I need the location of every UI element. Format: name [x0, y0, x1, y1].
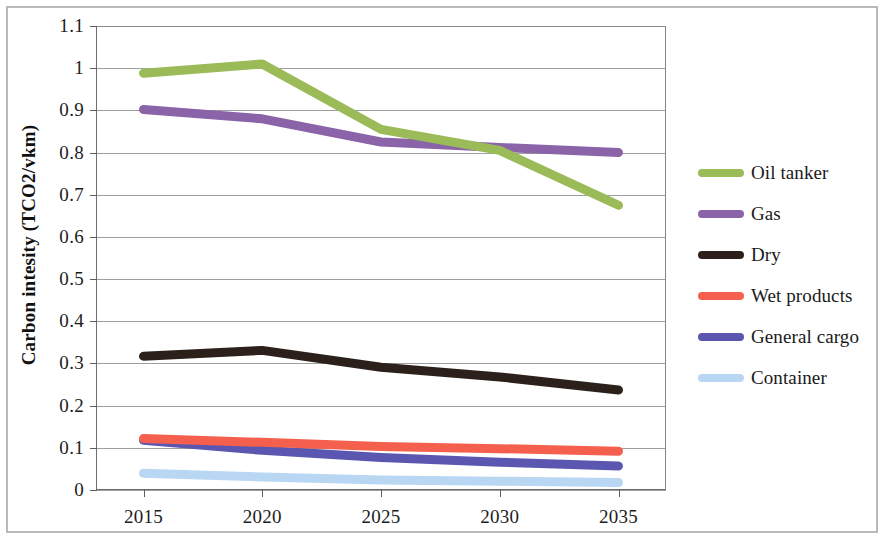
legend-label: General cargo	[751, 326, 859, 348]
x-tick-label: 2020	[243, 506, 282, 528]
x-tick-mark	[144, 489, 145, 497]
x-tick-mark	[619, 489, 620, 497]
legend-swatch	[698, 333, 744, 341]
legend: Oil tankerGasDryWet productsGeneral carg…	[698, 152, 878, 398]
y-tick-label: 0.1	[59, 437, 84, 459]
legend-item-container: Container	[698, 357, 878, 398]
y-tick-label: 0.5	[59, 268, 84, 290]
plot-area: 00.10.20.30.40.50.60.70.80.911.1 2015202…	[96, 26, 666, 490]
legend-label: Container	[751, 367, 827, 389]
legend-item-dry: Dry	[698, 234, 878, 275]
legend-item-wet-products: Wet products	[698, 275, 878, 316]
carbon-intensity-line-chart: Carbon intesity (TCO2/vkm) 00.10.20.30.4…	[0, 0, 884, 539]
y-tick-mark	[90, 490, 97, 491]
series-line-dry	[144, 350, 619, 390]
legend-label: Dry	[751, 244, 781, 266]
legend-swatch	[698, 169, 744, 177]
x-tick-label: 2030	[480, 506, 519, 528]
legend-label: Oil tanker	[751, 162, 829, 184]
y-tick-label: 0.4	[59, 310, 84, 332]
y-tick-label: 0.7	[59, 184, 84, 206]
x-tick-mark	[381, 489, 382, 497]
series-line-oil-tanker	[144, 64, 619, 205]
legend-label: Gas	[751, 203, 781, 225]
series-lines	[96, 26, 666, 490]
x-tick-label: 2035	[599, 506, 638, 528]
x-tick-mark	[500, 489, 501, 497]
x-tick-mark	[262, 489, 263, 497]
y-tick-label: 0.2	[59, 395, 84, 417]
y-tick-label: 1.1	[59, 15, 84, 37]
series-line-container	[144, 473, 619, 482]
legend-swatch	[698, 292, 744, 300]
y-tick-label: 0.3	[59, 352, 84, 374]
y-tick-label: 0.8	[59, 142, 84, 164]
y-tick-label: 0.9	[59, 99, 84, 121]
y-axis-title-text: Carbon intesity (TCO2/vkm)	[18, 125, 40, 366]
legend-swatch	[698, 251, 744, 259]
y-tick-label: 0.6	[59, 226, 84, 248]
legend-item-gas: Gas	[698, 193, 878, 234]
x-tick-label: 2025	[361, 506, 400, 528]
y-axis-title: Carbon intesity (TCO2/vkm)	[14, 0, 44, 490]
y-tick-label: 1	[74, 57, 84, 79]
legend-swatch	[698, 374, 744, 382]
x-tick-label: 2015	[124, 506, 163, 528]
legend-item-oil-tanker: Oil tanker	[698, 152, 878, 193]
y-tick-label: 0	[74, 479, 84, 501]
legend-swatch	[698, 210, 744, 218]
legend-item-general-cargo: General cargo	[698, 316, 878, 357]
legend-label: Wet products	[751, 285, 853, 307]
